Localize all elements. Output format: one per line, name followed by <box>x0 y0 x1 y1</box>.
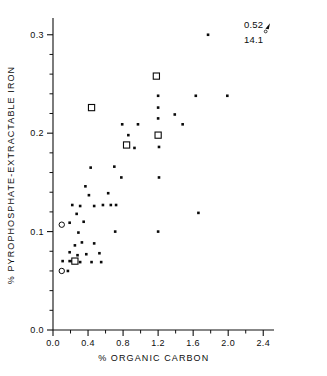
data-point-filled <box>68 251 71 254</box>
data-point-filled <box>79 205 82 208</box>
x-tick-label-4: 1.6 <box>186 338 200 348</box>
data-point-filled <box>207 33 210 36</box>
data-point-filled <box>157 117 160 120</box>
x-axis-title: % ORGANIC CARBON <box>98 353 209 363</box>
data-point-filled <box>102 204 105 207</box>
x-tick-label-0: 0.0 <box>46 338 60 348</box>
data-point-filled <box>79 261 82 264</box>
data-point-filled <box>158 176 161 179</box>
series-open-squares <box>72 73 161 264</box>
series-open-circles <box>59 222 64 274</box>
x-tick-label-1: 0.4 <box>81 338 95 348</box>
data-point-filled <box>88 194 91 197</box>
data-point-filled <box>115 204 118 207</box>
x-tick-label-6: 2.4 <box>256 338 270 348</box>
data-point-filled <box>90 261 93 264</box>
data-point-open-square <box>72 258 78 264</box>
data-point-filled <box>120 176 123 179</box>
y-axis-title: % PYROPHOSPHATE-EXTRACTABLE IRON <box>6 66 16 284</box>
data-point-filled <box>67 270 70 273</box>
y-tick-label-0: 0.0 <box>30 325 44 335</box>
data-point-open-square <box>88 104 94 110</box>
annotation-1: 14.1 <box>244 34 263 45</box>
data-point-filled <box>74 244 77 247</box>
data-point-filled <box>133 147 136 150</box>
data-point-filled <box>157 106 160 109</box>
x-tick-label-3: 1.2 <box>151 338 165 348</box>
data-point-filled <box>181 123 184 126</box>
data-point-filled <box>71 204 74 207</box>
data-point-open-circle <box>59 222 64 227</box>
data-point-filled <box>93 242 96 245</box>
annotation-0: 0.52 <box>244 19 263 30</box>
data-point-filled <box>107 192 110 195</box>
data-point-filled <box>121 123 124 126</box>
data-point-filled <box>85 253 88 256</box>
data-point-filled <box>82 220 85 223</box>
x-tick-label-2: 0.8 <box>116 338 130 348</box>
data-point-filled <box>127 134 130 137</box>
y-tick-label-1: 0.1 <box>30 227 44 237</box>
y-tick-label-2: 0.2 <box>30 128 44 138</box>
data-point-filled <box>61 260 64 263</box>
data-point-open-square <box>155 132 161 138</box>
annotation-circle-icon <box>264 30 267 33</box>
data-point-filled <box>197 212 200 215</box>
data-point-filled <box>113 165 116 168</box>
data-point-open-square <box>123 142 129 148</box>
data-point-filled <box>68 221 71 224</box>
x-tick-label-5: 2.0 <box>221 338 235 348</box>
data-point-open-circle <box>59 268 64 273</box>
y-tick-label-3: 0.3 <box>30 30 44 40</box>
data-point-filled <box>77 231 80 234</box>
data-point-filled <box>93 205 96 208</box>
annotation-caret-icon <box>265 23 270 29</box>
series-filled-points <box>61 33 228 272</box>
data-point-filled <box>100 261 103 264</box>
data-point-filled <box>137 123 140 126</box>
data-point-filled <box>173 113 176 116</box>
data-point-filled <box>89 166 92 169</box>
data-point-filled <box>194 94 197 97</box>
scatter-plot-figure: 0.00.40.81.21.62.02.40.00.10.20.3% ORGAN… <box>0 0 327 376</box>
data-point-filled <box>98 252 101 255</box>
data-point-filled <box>75 213 78 216</box>
data-point-filled <box>157 94 160 97</box>
data-point-filled <box>110 204 113 207</box>
data-point-filled <box>157 230 160 233</box>
data-point-filled <box>84 185 87 188</box>
data-point-filled <box>81 241 84 244</box>
data-point-filled <box>158 146 161 149</box>
data-point-filled <box>226 94 229 97</box>
data-point-open-square <box>153 73 159 79</box>
plot-canvas: 0.00.40.81.21.62.02.40.00.10.20.3% ORGAN… <box>0 0 327 376</box>
data-point-filled <box>76 254 79 257</box>
data-point-filled <box>114 230 117 233</box>
data-point-filled <box>68 260 71 263</box>
